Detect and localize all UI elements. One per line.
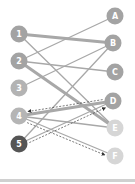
node-3: 3 [11,80,28,97]
node-label: E [112,124,117,133]
node-C: C [107,64,124,81]
node-label: A [112,12,119,21]
bottom-divider [0,179,135,182]
node-1: 1 [11,26,28,43]
node-4: 4 [11,108,28,125]
node-E: E [107,120,124,137]
edge-2-A [19,16,115,61]
node-label: 3 [16,84,22,93]
edge-3-B [19,43,113,88]
node-label: 1 [16,30,22,39]
node-A: A [107,8,124,25]
node-label: B [110,39,116,48]
node-5: 5 [11,136,28,153]
dashed-arrow-4-F [27,123,105,155]
edge-5-B [19,43,113,144]
bipartite-diagram: 12345ABCDEF [0,0,135,184]
node-label: 5 [16,140,22,149]
node-2: 2 [11,53,28,70]
node-label: C [112,68,118,77]
edges-group [19,16,115,156]
node-D: D [105,93,122,110]
node-label: 4 [16,112,22,121]
node-B: B [105,35,122,52]
node-label: F [112,152,117,161]
node-label: 2 [16,57,22,66]
edge-4-D [19,101,113,116]
nodes-group: 12345ABCDEF [11,8,124,165]
node-F: F [107,148,124,165]
node-label: D [110,97,117,106]
